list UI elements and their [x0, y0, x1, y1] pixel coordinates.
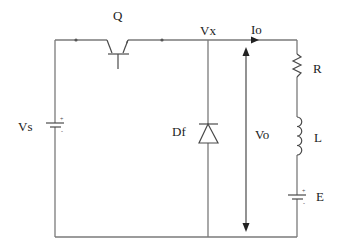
label-e: E [316, 189, 324, 204]
circuit-diagram: + - Vs Q Vx Df Io Vo R L [0, 0, 340, 251]
transistor-icon [107, 40, 129, 69]
diode-icon [199, 124, 218, 143]
label-vo: Vo [255, 127, 269, 142]
label-l: L [314, 130, 322, 145]
e-minus-sign: - [303, 200, 305, 206]
label-vx: Vx [200, 23, 216, 38]
inductor-icon [297, 117, 302, 155]
terminal-dot-left [74, 38, 77, 41]
vs-minus-sign: - [61, 128, 63, 134]
terminal-dot-right [160, 38, 163, 41]
label-io: Io [251, 22, 262, 37]
current-arrow-icon [251, 37, 259, 44]
label-q: Q [113, 8, 123, 23]
vs-plus-sign: + [60, 116, 64, 122]
e-plus-sign: + [302, 188, 306, 194]
label-r: R [313, 61, 322, 76]
resistor-icon [293, 54, 301, 77]
label-vs: Vs [18, 119, 32, 134]
label-df: Df [172, 124, 186, 139]
vo-arrow-icon [243, 47, 250, 232]
